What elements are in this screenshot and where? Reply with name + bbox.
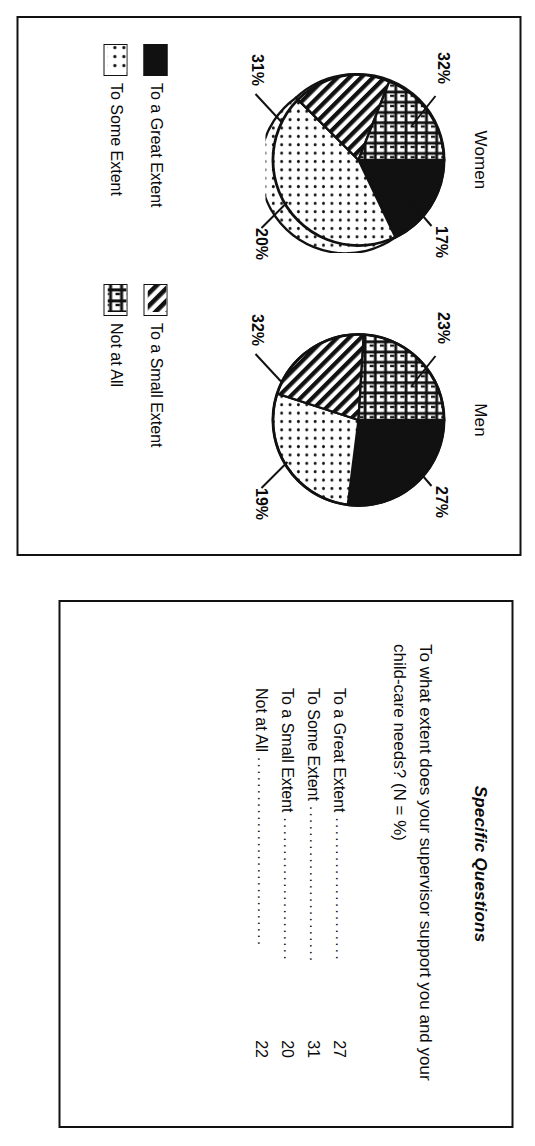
- pies-row: Women: [193, 18, 493, 554]
- pie-women-callout-some: 31%: [247, 54, 265, 86]
- legend-swatch-cross-hatch-icon: [103, 284, 127, 316]
- legend-item-great-extent: To a Great Extent: [143, 44, 167, 284]
- response-label: Not at All: [247, 688, 273, 752]
- pie-men-callout-small: 19%: [251, 488, 269, 520]
- pie-women-callout-great: 32%: [433, 52, 451, 84]
- table-row: To a Great Extent ......................…: [325, 688, 351, 1058]
- pie-men-callout-great: 23%: [433, 312, 451, 344]
- pie-women-callout-small: 20%: [251, 228, 269, 260]
- response-label: To a Small Extent: [273, 688, 299, 813]
- leader-dots: ......................: [328, 818, 352, 1027]
- scanned-page: Women: [0, 0, 535, 1146]
- response-table: To a Great Extent ......................…: [247, 688, 351, 1058]
- leader-dots: ......................: [276, 818, 300, 1028]
- legend-row-1: To a Great Extent To a Small Extent: [143, 44, 167, 524]
- table-row: Not at All .............................…: [247, 688, 273, 1058]
- response-label: To a Great Extent: [325, 688, 351, 813]
- pie-women: Women: [193, 40, 493, 280]
- legend-swatch-diagonal-hatch-icon: [143, 284, 167, 316]
- legend-item-small-extent: To a Small Extent: [143, 284, 167, 524]
- pie-men-graphic: [265, 327, 451, 513]
- legend-label-small-extent: To a Small Extent: [146, 323, 164, 448]
- legend-item-some-extent: To Some Extent: [103, 44, 127, 284]
- pie-women-graphic: [265, 67, 451, 253]
- specific-questions-heading: Specific Questions: [469, 602, 489, 1126]
- pie-men-title: Men: [469, 300, 489, 540]
- table-row: To Some Extent ........................ …: [299, 688, 325, 1058]
- legend-label-some-extent: To Some Extent: [106, 83, 124, 196]
- pie-men-callout-notatall: 27%: [431, 486, 449, 518]
- legend-row-2: To Some Extent Not at All: [103, 44, 127, 524]
- survey-question-text: To what extent does your supervisor supp…: [386, 644, 437, 1096]
- pie-women-title: Women: [469, 40, 489, 280]
- pie-men-callout-some: 32%: [247, 314, 265, 346]
- response-value: 22: [247, 1032, 273, 1058]
- legend-label-not-at-all: Not at All: [106, 323, 124, 387]
- response-value: 31: [299, 1032, 325, 1058]
- chart-legend: To a Great Extent To a Small Extent To S…: [87, 44, 167, 524]
- legend-label-great-extent: To a Great Extent: [146, 83, 164, 208]
- response-value: 27: [325, 1032, 351, 1058]
- leader-dots: .............................: [250, 757, 274, 1027]
- legend-swatch-dotted-icon: [103, 44, 127, 76]
- table-row: To a Small Extent ......................…: [273, 688, 299, 1058]
- legend-item-not-at-all: Not at All: [103, 284, 127, 524]
- response-label: To Some Extent: [299, 688, 325, 801]
- pie-men: Men: [193, 300, 493, 540]
- pie-women-callout-notatall: 17%: [431, 226, 449, 258]
- legend-swatch-solid-icon: [143, 44, 167, 76]
- leader-dots: ........................: [302, 806, 326, 1027]
- response-value: 20: [273, 1032, 299, 1058]
- pie-chart-panel: Women: [16, 16, 521, 556]
- specific-questions-panel: Specific Questions To what extent does y…: [58, 600, 513, 1128]
